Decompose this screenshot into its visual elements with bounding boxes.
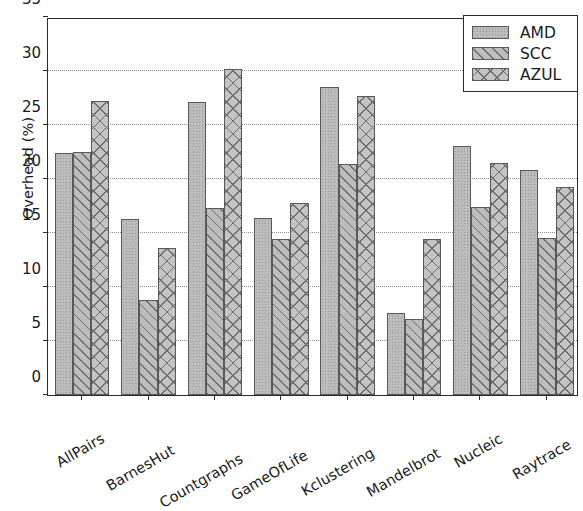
- y-tick-label: 20: [22, 152, 41, 170]
- bar: [387, 313, 405, 395]
- bar: [224, 69, 242, 395]
- legend-swatch-amd: [472, 26, 509, 39]
- y-tick-mark: [43, 394, 48, 395]
- legend-item: AZUL: [472, 64, 570, 85]
- y-tick-mark: [43, 178, 48, 179]
- legend-label: AZUL: [520, 66, 561, 84]
- x-tick-label: Nucleic: [452, 430, 506, 470]
- y-tick-label: 35: [22, 0, 41, 8]
- y-tick-mark: [43, 16, 48, 17]
- bar: [520, 170, 538, 395]
- y-tick-mark: [43, 70, 48, 71]
- y-tick-mark: [43, 232, 48, 233]
- bar: [121, 219, 139, 395]
- legend: AMDSCCAZUL: [463, 15, 578, 92]
- bar: [272, 239, 290, 395]
- legend-item: SCC: [472, 43, 570, 64]
- y-tick-label: 15: [22, 206, 41, 224]
- legend-label: AMD: [520, 24, 556, 42]
- legend-label: SCC: [520, 45, 551, 63]
- bar: [423, 239, 441, 395]
- legend-swatch-azul: [472, 68, 509, 81]
- bar: [490, 163, 508, 395]
- y-tick-label: 30: [22, 44, 41, 62]
- x-tick-mark: [148, 395, 149, 400]
- bar: [471, 207, 489, 395]
- bar: [55, 153, 73, 395]
- x-tick-mark: [81, 395, 82, 400]
- x-tick-mark: [280, 395, 281, 400]
- y-tick-mark: [43, 340, 48, 341]
- y-tick-label: 5: [31, 314, 41, 332]
- bar: [91, 101, 109, 395]
- bar: [206, 208, 224, 395]
- bar: [139, 300, 157, 395]
- bar: [538, 238, 556, 395]
- bar: [254, 218, 272, 395]
- y-tick-label: 25: [22, 98, 41, 116]
- y-tick-mark: [43, 124, 48, 125]
- x-tick-mark: [413, 395, 414, 400]
- bar: [556, 187, 574, 395]
- bar: [357, 96, 375, 395]
- y-tick-label: 10: [22, 260, 41, 278]
- x-tick-label: AllPairs: [54, 430, 107, 470]
- bar: [290, 203, 308, 395]
- bar: [339, 164, 357, 395]
- bar: [453, 146, 471, 395]
- x-tick-label: Mandelbrot: [364, 445, 443, 500]
- x-tick-label: Raytrace: [509, 436, 573, 482]
- x-tick-label: BarnesHut: [103, 442, 177, 494]
- legend-item: AMD: [472, 22, 570, 43]
- bar: [158, 248, 176, 395]
- bar: [73, 152, 91, 395]
- x-tick-mark: [347, 395, 348, 400]
- x-tick-mark: [479, 395, 480, 400]
- gridline: [48, 124, 577, 125]
- x-tick-mark: [214, 395, 215, 400]
- bar: [405, 319, 423, 395]
- bar: [320, 87, 338, 395]
- x-tick-mark: [546, 395, 547, 400]
- bar: [188, 102, 206, 395]
- y-tick-label: 0: [31, 368, 41, 386]
- y-tick-mark: [43, 286, 48, 287]
- x-tick-label: Kclustering: [298, 445, 376, 499]
- legend-swatch-scc: [472, 47, 509, 60]
